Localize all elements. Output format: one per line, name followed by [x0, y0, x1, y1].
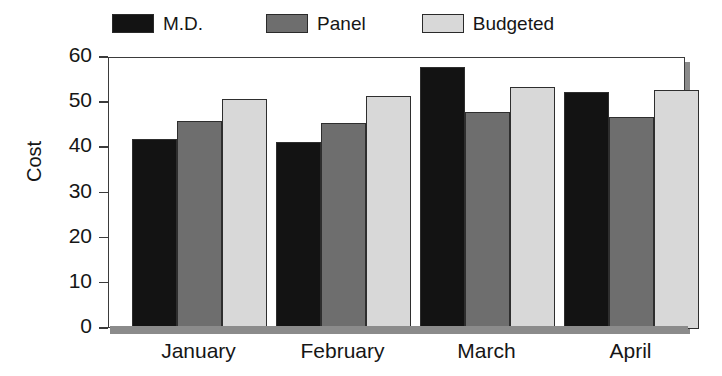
baseline-shadow [110, 326, 688, 334]
bar-january-budgeted [222, 99, 267, 329]
y-tick-mark [99, 192, 108, 194]
plot-area [109, 58, 684, 327]
bar-february-panel [321, 123, 366, 329]
y-tick-label: 30 [38, 180, 92, 201]
bar-february-budgeted [366, 96, 411, 329]
bar-january-panel [177, 121, 222, 329]
legend-entry-md: M.D. [112, 14, 203, 33]
bar-march-md [420, 67, 465, 329]
legend-entry-panel: Panel [266, 14, 366, 33]
bar-february-md [276, 142, 321, 329]
legend-swatch-panel [266, 14, 308, 33]
x-axis-label-april: April [541, 340, 721, 361]
y-tick-mark [99, 101, 108, 103]
bar-january-md [132, 139, 177, 329]
y-tick-label: 0 [38, 315, 92, 336]
plot-frame [108, 57, 685, 328]
y-tick-mark [99, 56, 108, 58]
y-tick-label: 50 [38, 89, 92, 110]
y-tick-label: 40 [38, 134, 92, 155]
y-tick-label: 10 [38, 270, 92, 291]
legend-swatch-budgeted [422, 14, 464, 33]
bar-april-budgeted [654, 90, 699, 329]
y-tick-label: 60 [38, 44, 92, 65]
legend-label-budgeted: Budgeted [473, 14, 554, 33]
legend-entry-budgeted: Budgeted [422, 14, 554, 33]
legend-swatch-md [112, 14, 154, 33]
y-tick-mark [99, 327, 108, 329]
bar-march-panel [465, 112, 510, 329]
y-tick-mark [99, 146, 108, 148]
y-tick-mark [99, 237, 108, 239]
y-tick-mark [99, 282, 108, 284]
legend-label-panel: Panel [317, 14, 366, 33]
bar-chart-figure: M.D. Panel Budgeted Cost 0102030405060 J… [0, 0, 722, 376]
chart-legend: M.D. Panel Budgeted [112, 9, 554, 37]
bar-march-budgeted [510, 87, 555, 329]
legend-label-md: M.D. [163, 14, 203, 33]
y-tick-label: 20 [38, 225, 92, 246]
bar-april-md [564, 92, 609, 329]
bar-april-panel [609, 117, 654, 329]
